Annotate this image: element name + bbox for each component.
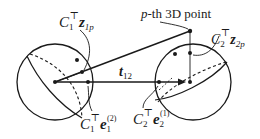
label-e1: C1⊤e1(2) — [80, 112, 117, 134]
baseline-t12 — [55, 79, 186, 86]
dot — [75, 58, 79, 62]
two-sphere-diagram: C1⊤z1p p-th 3D point C2⊤z2p t12 C1⊤e1(2)… — [0, 0, 260, 139]
great-circle-front — [27, 56, 82, 118]
leader-e2 — [143, 86, 158, 108]
leader-point — [160, 22, 188, 29]
dot — [173, 52, 177, 56]
label-t12: t12 — [119, 64, 132, 81]
label-e2: C2⊤e2(1) — [133, 107, 170, 129]
leader-e1 — [88, 86, 92, 111]
great-circle-back — [30, 54, 82, 118]
label-3d-point: p-th 3D point — [140, 6, 211, 21]
3d-point — [188, 29, 192, 33]
label-z1: C1⊤z1p — [59, 10, 94, 32]
label-z2: C2⊤z2p — [211, 27, 245, 49]
